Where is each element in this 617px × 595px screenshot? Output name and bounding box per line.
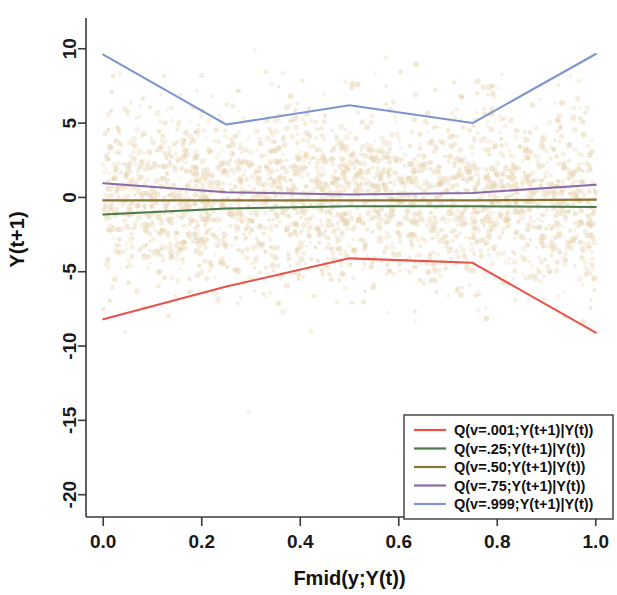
scatter-point xyxy=(335,183,341,189)
scatter-point xyxy=(529,215,533,219)
scatter-point xyxy=(414,319,417,322)
scatter-point xyxy=(556,83,560,87)
scatter-point xyxy=(213,276,216,279)
scatter-point xyxy=(469,164,475,170)
scatter-point xyxy=(217,113,222,118)
scatter-point xyxy=(333,177,339,183)
scatter-point xyxy=(499,202,503,206)
scatter-point xyxy=(487,221,491,225)
scatter-point xyxy=(528,274,534,280)
scatter-point xyxy=(554,154,559,159)
scatter-point xyxy=(319,223,324,228)
scatter-point xyxy=(159,92,163,96)
scatter-point xyxy=(295,140,300,145)
scatter-point xyxy=(347,244,351,248)
scatter-point xyxy=(490,106,494,110)
scatter-point xyxy=(116,250,121,255)
scatter-point xyxy=(144,230,147,233)
scatter-point xyxy=(407,161,413,167)
scatter-point xyxy=(370,284,376,290)
scatter-point xyxy=(505,213,508,216)
scatter-point xyxy=(269,252,275,258)
scatter-point xyxy=(172,191,178,197)
scatter-point xyxy=(465,258,468,261)
scatter-point xyxy=(109,217,113,221)
scatter-point xyxy=(457,147,463,153)
y-tick-label: -5 xyxy=(60,263,81,280)
scatter-point xyxy=(176,231,180,235)
scatter-point xyxy=(471,152,475,156)
scatter-point xyxy=(379,135,384,140)
scatter-point xyxy=(499,215,504,220)
scatter-point xyxy=(323,92,326,95)
scatter-point xyxy=(263,250,267,254)
scatter-point xyxy=(195,193,199,197)
scatter-point xyxy=(572,105,577,110)
scatter-point xyxy=(410,181,414,185)
scatter-point xyxy=(446,210,452,216)
scatter-point xyxy=(101,207,107,213)
scatter-point xyxy=(308,161,311,164)
scatter-point xyxy=(204,246,208,250)
scatter-point xyxy=(462,253,467,258)
scatter-point xyxy=(344,135,350,141)
scatter-point xyxy=(564,258,569,263)
scatter-point xyxy=(318,158,322,162)
scatter-point xyxy=(367,167,371,171)
scatter-point xyxy=(583,229,589,235)
scatter-point xyxy=(573,211,578,216)
scatter-point xyxy=(373,71,377,75)
scatter-point xyxy=(512,259,518,265)
scatter-point xyxy=(515,290,519,294)
scatter-point xyxy=(334,142,339,147)
scatter-point xyxy=(206,147,212,153)
scatter-point xyxy=(428,279,433,284)
scatter-point xyxy=(324,229,327,232)
scatter-point xyxy=(281,137,285,141)
scatter-point xyxy=(168,159,172,163)
scatter-point xyxy=(501,153,506,158)
scatter-point xyxy=(509,154,513,158)
scatter-point xyxy=(285,187,289,191)
scatter-point xyxy=(300,229,304,233)
scatter-point xyxy=(363,290,366,293)
scatter-point xyxy=(213,218,217,222)
scatter-point xyxy=(507,218,511,222)
scatter-point xyxy=(315,161,319,165)
scatter-point xyxy=(107,171,110,174)
scatter-point xyxy=(482,107,486,111)
scatter-point xyxy=(108,110,111,113)
scatter-point xyxy=(449,229,454,234)
scatter-point xyxy=(399,147,403,151)
scatter-point xyxy=(275,161,279,165)
scatter-point xyxy=(225,264,229,268)
scatter-point xyxy=(455,209,460,214)
scatter-point xyxy=(503,142,509,148)
scatter-point xyxy=(536,190,540,194)
scatter-point xyxy=(437,273,442,278)
scatter-point xyxy=(559,134,564,139)
scatter-point xyxy=(262,182,268,188)
scatter-point xyxy=(385,231,389,235)
scatter-point xyxy=(477,173,481,177)
scatter-point xyxy=(299,150,302,153)
scatter-point xyxy=(543,274,546,277)
scatter-point xyxy=(175,278,180,283)
scatter-point xyxy=(433,279,438,284)
scatter-point xyxy=(330,129,333,132)
scatter-point xyxy=(264,70,268,74)
scatter-point xyxy=(456,174,461,179)
scatter-point xyxy=(301,222,307,228)
scatter-point xyxy=(397,262,402,267)
scatter-point xyxy=(329,212,333,216)
scatter-point xyxy=(105,186,110,191)
scatter-point xyxy=(236,302,240,306)
scatter-point xyxy=(284,104,290,110)
scatter-point xyxy=(447,247,453,253)
scatter-cloud xyxy=(101,48,598,414)
scatter-point xyxy=(317,171,322,176)
scatter-point xyxy=(236,110,239,113)
scatter-point xyxy=(304,166,307,169)
scatter-point xyxy=(339,252,343,256)
y-tick-label: 0 xyxy=(60,192,81,203)
